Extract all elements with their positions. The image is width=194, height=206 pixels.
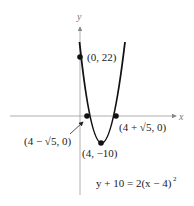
equation: y + 10 = 2(x − 4)	[96, 177, 172, 190]
x-axis-label: x	[178, 111, 184, 122]
y-axis-label: y	[76, 11, 82, 22]
label-vertex: (4, −10)	[82, 147, 118, 160]
parabola-figure: x y (0, 22) (4 − √5, 0) (4 + √5, 0) (4, …	[0, 0, 194, 206]
label-right-root: (4 + √5, 0)	[119, 121, 166, 134]
point-vertex	[98, 140, 104, 146]
label-y-intercept: (0, 22)	[87, 51, 117, 64]
point-y-intercept	[77, 54, 83, 60]
label-left-root: (4 − √5, 0)	[24, 135, 71, 148]
point-left-root	[84, 113, 90, 119]
left-root-pointer-arrow	[70, 122, 83, 134]
equation-exponent: 2	[173, 175, 177, 183]
point-right-root	[113, 113, 119, 119]
